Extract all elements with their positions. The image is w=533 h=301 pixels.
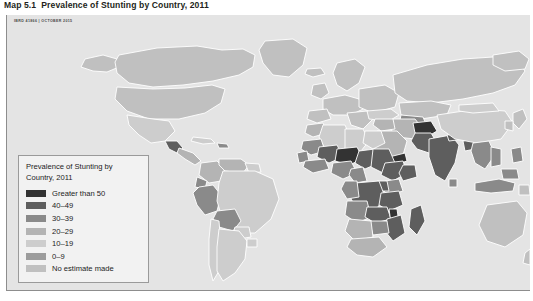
region-mongolia — [459, 103, 499, 113]
region-siberia-east — [493, 51, 529, 71]
legend-item-list: Greater than 50 40–49 30–39 20–29 10–19 — [26, 187, 141, 275]
legend-title-line1: Prevalence of Stunting by — [26, 162, 113, 171]
legend-swatch-no-estimate — [26, 265, 46, 272]
region-hispaniola — [217, 143, 229, 148]
region-uk-ireland — [311, 83, 329, 99]
legend-title-line2: Country, 2011 — [26, 173, 73, 182]
legend-swatch-30-39 — [26, 215, 46, 222]
region-iraq-syria — [373, 119, 395, 131]
region-borneo — [501, 169, 519, 179]
legend-label-gt50: Greater than 50 — [52, 189, 105, 198]
region-sri-lanka — [449, 179, 457, 187]
figure-title: Map 5.1Prevalence of Stunting by Country… — [4, 0, 209, 10]
region-gabon-congo — [341, 181, 359, 199]
region-indonesia — [475, 179, 515, 193]
legend-title: Prevalence of Stunting by Country, 2011 — [26, 162, 141, 183]
region-canada — [115, 46, 255, 87]
region-somalia — [399, 165, 417, 181]
region-eastern-europe — [359, 85, 399, 113]
region-cuba — [191, 137, 215, 144]
region-philippines — [511, 147, 523, 163]
region-south-africa — [347, 237, 387, 257]
figure-number: Map 5.1 — [4, 0, 36, 10]
region-iceland — [305, 68, 325, 77]
legend-swatch-0-9 — [26, 253, 46, 260]
region-greenland — [259, 39, 307, 77]
legend-swatch-gt50 — [26, 190, 46, 197]
legend-item-40-49[interactable]: 40–49 — [26, 200, 141, 213]
region-united-states — [115, 85, 225, 119]
region-india — [429, 135, 459, 181]
legend-item-20-29[interactable]: 20–29 — [26, 225, 141, 238]
region-guinea-coast — [303, 159, 329, 173]
figure-container: Map 5.1Prevalence of Stunting by Country… — [0, 0, 533, 301]
legend-item-0-9[interactable]: 0–9 — [26, 250, 141, 263]
legend-swatch-20-29 — [26, 228, 46, 235]
legend-label-0-9: 0–9 — [52, 252, 65, 261]
legend-label-20-29: 20–29 — [52, 227, 73, 236]
legend-item-10-19[interactable]: 10–19 — [26, 237, 141, 250]
legend-item-no-estimate[interactable]: No estimate made — [26, 263, 141, 276]
region-australia — [479, 201, 527, 247]
legend-swatch-40-49 — [26, 202, 46, 209]
region-japan — [513, 109, 527, 129]
region-iberia — [307, 109, 331, 123]
region-argentina — [217, 229, 247, 281]
region-new-zealand — [523, 249, 530, 265]
region-central-america — [177, 148, 201, 165]
legend-label-40-49: 40–49 — [52, 201, 73, 210]
region-alaska — [81, 55, 119, 72]
legend-label-no-estimate: No estimate made — [52, 264, 114, 273]
legend-item-30-39[interactable]: 30–39 — [26, 212, 141, 225]
region-papua — [519, 185, 530, 195]
legend-swatch-10-19 — [26, 240, 46, 247]
region-madagascar — [409, 205, 425, 235]
map-panel: IBRD 41866 | OCTOBER 2015 — [6, 15, 530, 291]
region-vietnam — [491, 147, 501, 167]
region-korea — [505, 121, 513, 131]
legend-label-30-39: 30–39 — [52, 214, 73, 223]
figure-title-text: Prevalence of Stunting by Country, 2011 — [41, 0, 209, 10]
legend-label-10-19: 10–19 — [52, 239, 73, 248]
region-scandinavia — [333, 59, 365, 91]
map-legend: Prevalence of Stunting by Country, 2011 … — [18, 155, 149, 283]
legend-item-gt50[interactable]: Greater than 50 — [26, 187, 141, 200]
region-uruguay — [247, 239, 257, 247]
